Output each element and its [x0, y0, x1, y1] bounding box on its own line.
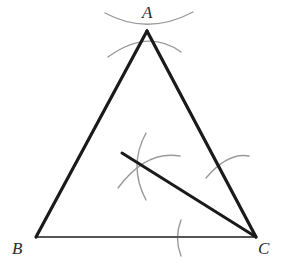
side-ac-tick-arc [206, 155, 249, 178]
vertex-label-c: C [258, 240, 269, 257]
side-AC-line [147, 31, 256, 237]
vertex-label-a: A [142, 4, 152, 21]
side-AB-line [36, 31, 147, 237]
apex-arc-right-to-left-arc [108, 41, 181, 57]
geometry-figure: A B C [0, 0, 281, 269]
cevian-to-C-line [122, 153, 256, 237]
vertex-label-b: B [12, 240, 22, 257]
geometry-canvas [0, 0, 281, 269]
